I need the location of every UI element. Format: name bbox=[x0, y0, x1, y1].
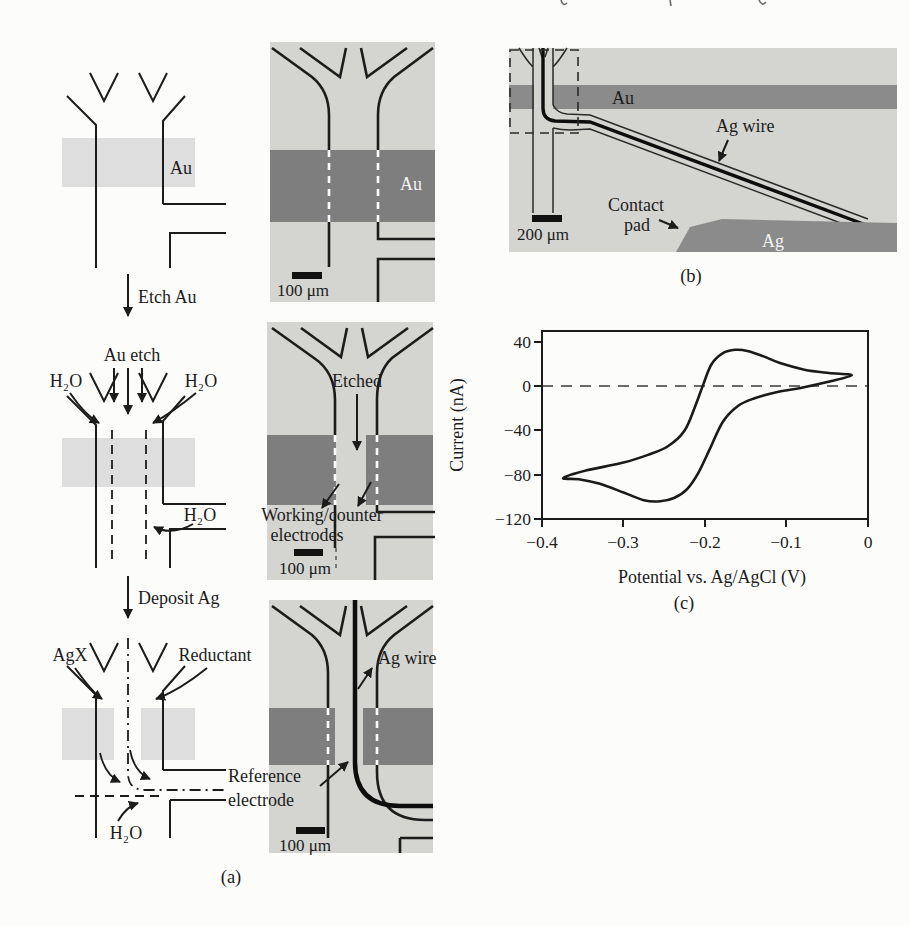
caption-c: (c) bbox=[674, 593, 695, 614]
ag-wire-label-micrograph3: Ag wire bbox=[378, 648, 436, 668]
au-etch-inlet-label: Au etch bbox=[104, 345, 160, 365]
ag-wire-label-panel-b: Ag wire bbox=[716, 116, 774, 136]
figure-page: Au Etch Au Au etch H₂O H₂O H₂O Deposit A… bbox=[0, 0, 909, 926]
x-axis-label: Potential vs. Ag/AgCl (V) bbox=[618, 567, 806, 588]
h2o-outlet-label: H₂O bbox=[184, 505, 216, 525]
axis-tick-marks bbox=[534, 342, 868, 527]
y-tick-0: 0 bbox=[522, 376, 531, 396]
deposit-step-label: Deposit Ag bbox=[138, 588, 220, 608]
reductant-inlet-label: Reductant bbox=[179, 645, 252, 665]
panel-c: 40 0 −40 −80 −120 −0.4 −0.3 −0.2 −0.1 0 … bbox=[447, 331, 873, 614]
h2o-right-label: H₂O bbox=[185, 371, 217, 391]
au-band-left-micrograph3 bbox=[269, 708, 335, 765]
au-band-panel-b bbox=[509, 85, 897, 109]
schematic-step2: Au etch H₂O H₂O H₂O Deposit Ag bbox=[50, 345, 226, 618]
au-band-label: Au bbox=[170, 158, 192, 178]
figure-canvas: Au Etch Au Au etch H₂O H₂O H₂O Deposit A… bbox=[0, 0, 909, 926]
scale-label-panel-b: 200 μm bbox=[517, 225, 569, 244]
x-tick-0: 0 bbox=[864, 532, 873, 552]
h2o-bottom-flow-arrow bbox=[118, 803, 138, 821]
au-band-right-schematic3 bbox=[141, 708, 195, 760]
micrograph-2: Etched Working/counter electrodes 100 μm bbox=[261, 322, 435, 580]
agx-inlet-label: AgX bbox=[53, 645, 88, 665]
ag-contact-pad bbox=[676, 219, 897, 252]
scale-bar-micrograph1 bbox=[292, 272, 322, 279]
contact-pad-annotation-line1: Contact bbox=[608, 195, 664, 215]
etched-label: Etched bbox=[332, 371, 382, 391]
agx-flow-arrow bbox=[75, 668, 102, 699]
schematic-step3: AgX Reductant H₂O bbox=[53, 638, 252, 843]
y-tick-neg80: −80 bbox=[504, 465, 532, 485]
au-band-right-micrograph3 bbox=[363, 708, 433, 765]
x-tick-neg01: −0.1 bbox=[770, 532, 802, 552]
au-band-label-micrograph1: Au bbox=[400, 174, 422, 194]
h2o-bottom-label: H₂O bbox=[110, 823, 142, 843]
scale-bar-micrograph3 bbox=[296, 827, 325, 834]
h2o-left-label: H₂O bbox=[50, 371, 82, 391]
y-tick-40: 40 bbox=[514, 332, 532, 352]
micrograph-3: Ag wire Reference electrode 100 μm bbox=[228, 600, 436, 855]
au-band-schematic2 bbox=[62, 438, 195, 487]
y-tick-neg40: −40 bbox=[504, 420, 532, 440]
au-band-label-panel-b: Au bbox=[612, 88, 634, 108]
reference-annotation-line2: electrode bbox=[228, 790, 294, 810]
electrodes-annotation-line2: electrodes bbox=[271, 525, 344, 545]
h2o-left-flow-arrow bbox=[70, 393, 99, 423]
micrograph-b-background bbox=[509, 48, 897, 252]
reference-annotation-line1: Reference bbox=[228, 766, 301, 786]
scale-label-micrograph2: 100 μm bbox=[279, 559, 331, 578]
scale-label-micrograph3: 100 μm bbox=[279, 836, 331, 855]
au-band-left-schematic3 bbox=[62, 708, 114, 760]
panel-b: Au Ag Ag wire Contact pad 200 μm (b) bbox=[509, 48, 897, 287]
y-axis-label: Current (nA) bbox=[447, 378, 468, 471]
scale-bar-micrograph2 bbox=[294, 549, 323, 556]
x-tick-neg04: −0.4 bbox=[526, 532, 558, 552]
caption-a: (a) bbox=[221, 867, 242, 888]
working-electrode-band bbox=[267, 435, 336, 505]
caption-b: (b) bbox=[680, 266, 702, 287]
plot-frame bbox=[542, 331, 868, 519]
ag-pad-label: Ag bbox=[762, 231, 784, 251]
counter-electrode-band bbox=[366, 435, 433, 505]
etch-step-label: Etch Au bbox=[138, 287, 197, 307]
scale-label-micrograph1: 100 μm bbox=[277, 281, 329, 300]
contact-pad-annotation-line2: pad bbox=[624, 215, 650, 235]
cropped-header-fragments bbox=[561, 0, 766, 6]
x-tick-neg02: −0.2 bbox=[689, 532, 721, 552]
electrodes-annotation-line1: Working/counter bbox=[261, 505, 383, 525]
cv-curve bbox=[563, 350, 852, 502]
x-tick-neg03: −0.3 bbox=[607, 532, 639, 552]
y-tick-neg120: −120 bbox=[495, 509, 531, 529]
schematic-step1: Au Etch Au bbox=[62, 73, 226, 316]
scale-bar-panel-b bbox=[532, 215, 562, 222]
micrograph-1: Au 100 μm bbox=[270, 42, 435, 302]
